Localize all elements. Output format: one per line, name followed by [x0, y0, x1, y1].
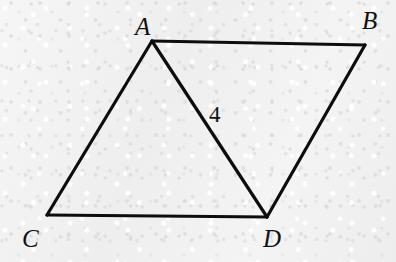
- vertex-label-b: B: [362, 8, 377, 33]
- segment-ac: [47, 41, 152, 215]
- segment-cd: [47, 215, 267, 217]
- geometry-figure: A B C D 4: [0, 0, 396, 262]
- vertex-label-d: D: [263, 226, 281, 251]
- figure-canvas: [0, 0, 396, 262]
- vertex-label-c: C: [22, 226, 39, 251]
- vertex-label-a: A: [135, 14, 150, 39]
- segment-ab: [152, 41, 365, 45]
- segment-ad-diagonal: [152, 41, 267, 217]
- segment-bd: [267, 45, 365, 217]
- segment-length-label-ad: 4: [209, 103, 221, 126]
